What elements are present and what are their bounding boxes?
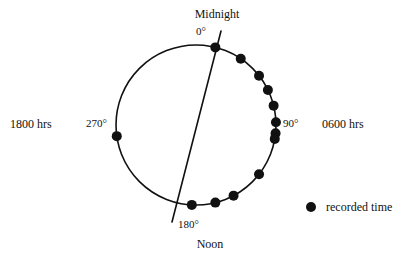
data-point: 0552 [271, 117, 281, 127]
legend-label: recorded time [326, 201, 414, 213]
data-point: 0056 [210, 42, 220, 52]
data-point: 1104 [210, 198, 220, 208]
label-noon: Noon [172, 238, 248, 250]
data-point: 1212 [187, 200, 197, 210]
data-point: 0640 [270, 134, 280, 144]
data-point: 0416 [263, 85, 273, 95]
data-point: 0216 [236, 54, 246, 64]
label-degree-270: 270° [86, 118, 120, 129]
data-point: 0328 [254, 71, 264, 81]
label-degree-0: 0° [178, 26, 224, 37]
data-point: 1008 [229, 191, 239, 201]
label-1800-hrs: 1800 hrs [10, 118, 76, 130]
label-degree-180: 180° [178, 219, 228, 230]
legend-marker-icon [306, 202, 316, 212]
data-point: 0504 [269, 101, 279, 111]
data-point: 0832 [254, 169, 264, 179]
label-0600-hrs: 0600 hrs [322, 118, 388, 130]
data-point: 1728 [112, 131, 122, 141]
label-degree-90: 90° [283, 118, 313, 129]
label-midnight: Midnight [172, 8, 262, 20]
